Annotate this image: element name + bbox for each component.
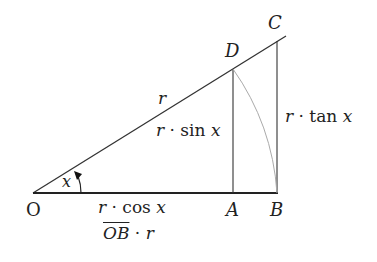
label-point-a: A bbox=[226, 201, 239, 219]
ob-var: r bbox=[146, 223, 154, 243]
label-point-d: D bbox=[225, 42, 239, 60]
label-point-c: C bbox=[268, 14, 282, 32]
label-point-o: O bbox=[26, 201, 41, 219]
ob-op: · bbox=[135, 223, 140, 243]
unit-arc bbox=[233, 69, 277, 193]
label-hypotenuse-r: r bbox=[158, 90, 166, 107]
cosine-arg: x bbox=[156, 197, 166, 217]
sine-op: · bbox=[170, 120, 175, 140]
tangent-var: r bbox=[285, 106, 293, 126]
cosine-fn: cos bbox=[122, 197, 150, 217]
label-ob: OB · r bbox=[103, 225, 154, 242]
angle-arrow-icon bbox=[74, 171, 82, 180]
sine-arg: x bbox=[211, 120, 221, 140]
ob-over: OB bbox=[103, 223, 129, 243]
sine-var: r bbox=[156, 120, 164, 140]
cosine-op: · bbox=[112, 197, 117, 217]
tangent-arg: x bbox=[343, 106, 353, 126]
angle-arc bbox=[78, 176, 81, 193]
sine-fn: sin bbox=[180, 120, 205, 140]
label-tangent: r · tan x bbox=[285, 108, 352, 125]
label-angle-x: x bbox=[62, 174, 71, 190]
tangent-op: · bbox=[299, 106, 304, 126]
tangent-fn: tan bbox=[309, 106, 337, 126]
label-sine: r · sin x bbox=[156, 122, 220, 139]
label-cosine: r · cos x bbox=[98, 199, 166, 216]
cosine-var: r bbox=[98, 197, 106, 217]
hypotenuse-line bbox=[33, 36, 286, 193]
label-point-b: B bbox=[270, 201, 283, 219]
